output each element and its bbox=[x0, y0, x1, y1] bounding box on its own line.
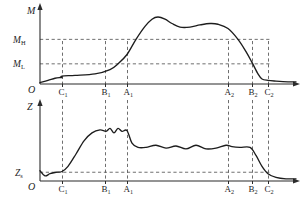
curve-M bbox=[40, 17, 296, 83]
x-marker-label-A1: A1 bbox=[124, 184, 134, 195]
x-marker-label-C1: C1 bbox=[59, 184, 68, 195]
figure-container: MHMLMOC1B1A1A2B2C2 ZsZOC1B1A1A2B2C2 bbox=[0, 0, 307, 197]
x-marker-label-C2: C2 bbox=[265, 184, 274, 195]
dual-line-chart: MHMLMOC1B1A1A2B2C2 ZsZOC1B1A1A2B2C2 bbox=[0, 0, 307, 197]
y-tick-label-ML: ML bbox=[12, 59, 25, 70]
x-marker-label-A2: A2 bbox=[225, 184, 235, 195]
curve-Z bbox=[40, 128, 296, 178]
upper-chart-group: MHMLMOC1B1A1A2B2C2 bbox=[12, 3, 300, 98]
y-tick-label-Zs: Zs bbox=[15, 168, 23, 179]
y-tick-label-MH: MH bbox=[12, 35, 26, 46]
x-marker-label-B1: B1 bbox=[102, 87, 111, 98]
x-marker-label-B2: B2 bbox=[249, 87, 258, 98]
y-axis-arrow-icon bbox=[37, 3, 42, 10]
x-marker-label-A2: A2 bbox=[225, 87, 235, 98]
x-marker-label-B2: B2 bbox=[249, 184, 258, 195]
x-marker-label-A1: A1 bbox=[124, 87, 134, 98]
x-marker-label-C2: C2 bbox=[265, 87, 274, 98]
y-axis-title-M: M bbox=[26, 5, 36, 16]
origin-label-upper-chart: O bbox=[28, 84, 35, 95]
y-axis-arrow-icon bbox=[37, 99, 42, 106]
origin-label-lower-chart: O bbox=[28, 181, 35, 192]
x-marker-label-B1: B1 bbox=[102, 184, 111, 195]
y-axis-title-Z: Z bbox=[27, 101, 33, 112]
lower-chart-group: ZsZOC1B1A1A2B2C2 bbox=[15, 99, 300, 195]
x-marker-label-C1: C1 bbox=[59, 87, 68, 98]
